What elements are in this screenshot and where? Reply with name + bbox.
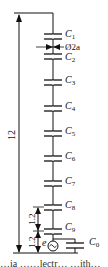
figure-caption-partial: …ia ……lectr… …ith… — [0, 258, 108, 267]
c4-label: C4 — [65, 100, 76, 113]
c7-label: C7 — [65, 175, 76, 188]
capacitor-column-diagram: 12 C1 Ø2a C2 C3 C4 C5 — [0, 0, 108, 267]
c3-label: C3 — [65, 74, 76, 87]
capacitor-c2: C2 — [44, 51, 76, 64]
capacitor-c7: C7 — [44, 175, 76, 188]
c2-label: C2 — [65, 51, 76, 64]
capacitor-c0: C0 — [53, 236, 100, 253]
lower-segment-label: 1.2 — [27, 236, 37, 247]
c0-label: C0 — [89, 236, 100, 249]
arrow-up-icon — [16, 14, 22, 22]
arrow-right-icon — [46, 44, 53, 50]
total-height-label: 12 — [6, 130, 17, 140]
arrow-down-icon — [16, 245, 22, 253]
c8-label: C8 — [65, 199, 76, 212]
capacitor-c8: C8 — [44, 199, 76, 212]
capacitor-c4: C4 — [44, 100, 76, 113]
upper-segment-label: 1.2 — [27, 213, 37, 224]
c5-label: C5 — [65, 125, 76, 138]
c9-label: C9 — [65, 221, 76, 234]
c6-label: C6 — [65, 150, 76, 163]
arrow-left-icon — [53, 44, 60, 50]
source-label: e — [42, 237, 47, 248]
c1-label: C1 — [65, 28, 76, 41]
arrow-up-icon — [35, 207, 41, 214]
capacitor-c1: C1 — [44, 28, 76, 41]
diameter-marker: Ø2a — [36, 42, 80, 52]
capacitor-c9: C9 — [44, 221, 76, 234]
capacitor-c5: C5 — [44, 125, 76, 138]
capacitor-c3: C3 — [44, 74, 76, 87]
capacitor-c6: C6 — [44, 150, 76, 163]
